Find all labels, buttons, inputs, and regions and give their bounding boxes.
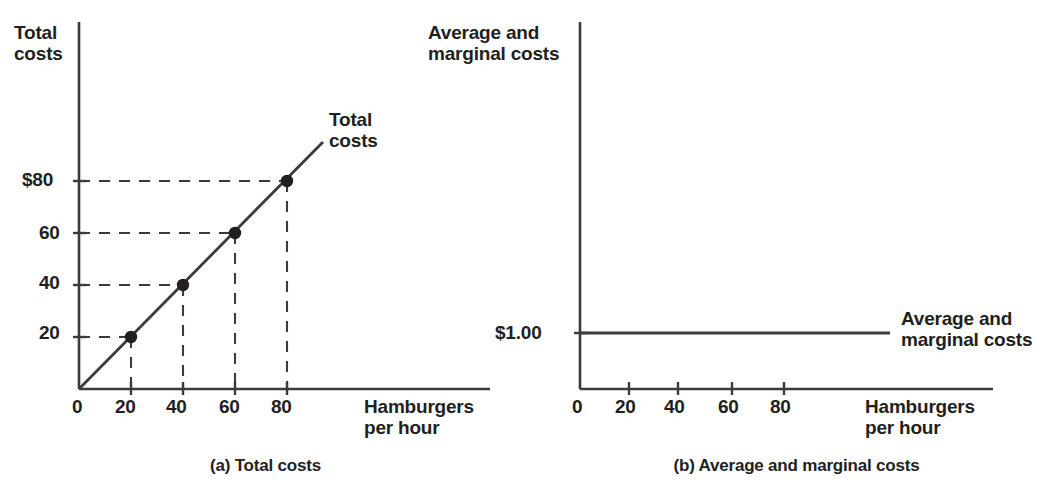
panel-a-curve-label-line1: Total: [329, 109, 372, 130]
panel-a-y-tick-label-60: 60: [39, 222, 60, 243]
panel-b-y-axis-title: Average andmarginal costs: [428, 22, 559, 65]
panel-b-x-tick-label-80: 80: [770, 396, 791, 417]
panel-a-y-axis-title-line2: costs: [14, 43, 63, 64]
panel-b-curve-label-line2: marginal costs: [901, 329, 1032, 350]
panel-a-curve-label-line2: costs: [329, 130, 378, 151]
panel-a-x-tick-label-60: 60: [219, 396, 240, 417]
panel-a-y-axis-title-line1: Total: [14, 22, 57, 43]
panel-a-data-point: [229, 227, 241, 239]
panel-a-y-tick-label-40: 40: [39, 272, 60, 293]
panel-b-average-marginal-costs: Average andmarginal costs $1.00 0 20 40 …: [531, 0, 1062, 497]
panel-b-x-axis-title-line2: per hour: [865, 417, 940, 438]
panel-a-data-point: [281, 175, 293, 187]
panel-b-curve-label-line1: Average and: [901, 308, 1012, 329]
panel-b-plot: [531, 0, 1062, 497]
panel-a-x-tick-label-20: 20: [115, 396, 136, 417]
panel-b-x-tick-label-60: 60: [718, 396, 739, 417]
panel-b-y-axis-title-line2: marginal costs: [428, 43, 559, 64]
panel-b-x-tick-label-20: 20: [615, 396, 636, 417]
panel-a-y-tick-label-80: $80: [22, 169, 53, 190]
panel-a-x-tick-label-40: 40: [166, 396, 187, 417]
panel-a-data-point: [177, 279, 189, 291]
economics-cost-figure: Totalcosts $80 60 40 20 0 20 40 60 80 To…: [0, 0, 1062, 497]
panel-b-y-tick-label-100: $1.00: [495, 322, 542, 343]
panel-b-x-tick-label-0: 0: [572, 396, 582, 417]
panel-a-caption: (a) Total costs: [0, 456, 531, 475]
panel-a-x-tick-label-0: 0: [72, 396, 82, 417]
panel-b-x-axis-title: Hamburgersper hour: [865, 396, 975, 439]
panel-a-x-tick-label-80: 80: [271, 396, 292, 417]
panel-a-y-axis-title: Totalcosts: [14, 22, 63, 65]
panel-b-x-axis-title-line1: Hamburgers: [865, 396, 975, 417]
panel-b-y-axis-title-line1: Average and: [428, 22, 539, 43]
panel-a-curve-label: Totalcosts: [329, 109, 378, 152]
panel-a-y-tick-label-20: 20: [39, 322, 60, 343]
panel-a-total-costs: Totalcosts $80 60 40 20 0 20 40 60 80 To…: [0, 0, 531, 497]
panel-a-x-axis-title-line1: Hamburgers: [364, 396, 474, 417]
panel-b-caption: (b) Average and marginal costs: [531, 456, 1062, 475]
panel-a-x-axis-title: Hamburgersper hour: [364, 396, 474, 439]
panel-a-data-point: [125, 331, 137, 343]
panel-b-curve-label: Average andmarginal costs: [901, 308, 1032, 351]
panel-b-x-tick-label-40: 40: [664, 396, 685, 417]
panel-a-x-axis-title-line2: per hour: [364, 417, 439, 438]
